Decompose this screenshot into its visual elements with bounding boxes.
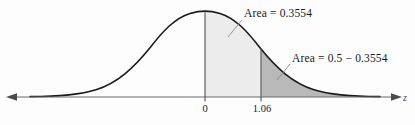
normal-distribution-figure: Area = 0.3554 Area = 0.5 − 0.3554 0 1.06… <box>0 0 415 125</box>
tick-label-z-score: 1.06 <box>246 104 278 115</box>
axis-right-arrowhead <box>391 93 402 101</box>
area-label-right: Area = 0.5 − 0.3554 <box>292 53 388 65</box>
axis-variable-label: z <box>403 92 407 103</box>
area-label-left: Area = 0.3554 <box>244 8 312 20</box>
tick-label-zero: 0 <box>196 104 214 115</box>
axis-left-arrowhead <box>6 93 17 101</box>
